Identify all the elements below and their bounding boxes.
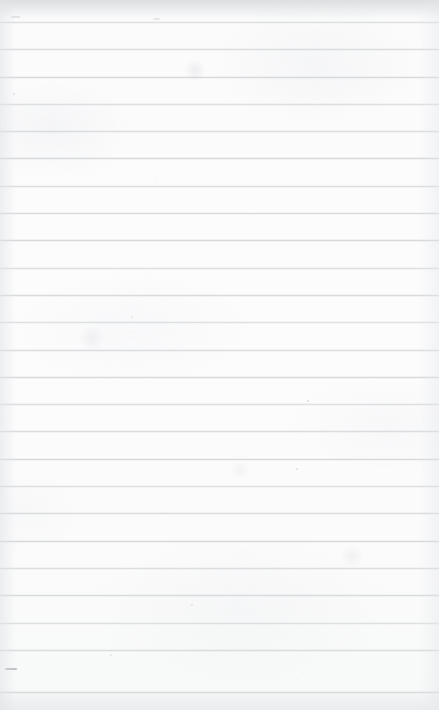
page-edge-vignette bbox=[0, 0, 439, 710]
scanned-page bbox=[0, 0, 439, 710]
